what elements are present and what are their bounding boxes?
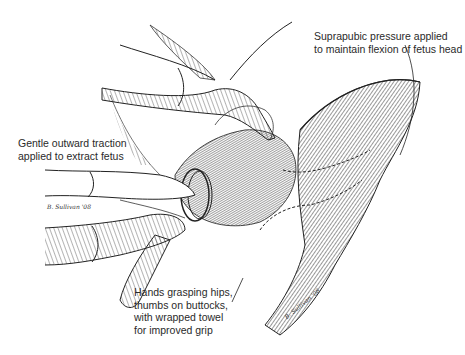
annotation-line: Gentle outward traction: [18, 137, 127, 150]
illustration: Suprapubic pressure applied to maintain …: [0, 0, 465, 355]
annotation-suprapubic-pressure: Suprapubic pressure applied to maintain …: [314, 30, 462, 55]
annotation-line: to maintain flexion of fetus head: [314, 43, 462, 56]
annotation-line: applied to extract fetus: [18, 150, 127, 163]
pointer-hands: [232, 278, 243, 302]
artist-signature-left: B. Sullivan '08: [47, 203, 91, 210]
annotation-line: thumbs on buttocks,: [134, 299, 233, 312]
annotation-line: Suprapubic pressure applied: [314, 30, 462, 43]
annotation-line: for improved grip: [134, 324, 233, 337]
annotation-outward-traction: Gentle outward traction applied to extra…: [18, 137, 127, 162]
annotation-hands-grasping: Hands grasping hips, thumbs on buttocks,…: [134, 286, 233, 336]
annotation-line: with wrapped towel: [134, 311, 233, 324]
lower-arms: [45, 170, 195, 265]
annotation-line: Hands grasping hips,: [134, 286, 233, 299]
